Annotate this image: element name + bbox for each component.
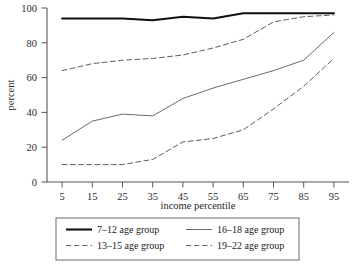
- x-tick-label: 85: [298, 191, 309, 202]
- series-line: [62, 15, 334, 71]
- legend-label: 7–12 age group: [97, 224, 159, 235]
- legend-label: 16–18 age group: [217, 224, 284, 235]
- y-tick-label: 0: [32, 177, 37, 188]
- x-tick-label: 25: [117, 191, 128, 202]
- x-tick-label: 65: [238, 191, 249, 202]
- x-axis-ticks: 5152535455565758595: [59, 182, 339, 202]
- x-tick-label: 5: [59, 191, 64, 202]
- axes-spines: [47, 8, 349, 182]
- y-tick-label: 20: [27, 142, 38, 153]
- x-tick-label: 35: [147, 191, 158, 202]
- y-tick-label: 40: [27, 107, 38, 118]
- y-tick-label: 100: [21, 3, 37, 14]
- series-lines: [62, 13, 334, 164]
- line-chart-svg: 0 20 40 60 80 100 5152535455565758595 pe…: [0, 0, 356, 266]
- legend-label: 13–15 age group: [97, 240, 164, 251]
- legend: 7–12 age group16–18 age group13–15 age g…: [56, 218, 299, 260]
- series-line: [62, 58, 334, 164]
- series-line: [62, 32, 334, 140]
- chart-figure: 0 20 40 60 80 100 5152535455565758595 pe…: [0, 0, 356, 266]
- y-axis-ticks: 0 20 40 60 80 100: [21, 3, 47, 188]
- x-tick-label: 15: [87, 191, 98, 202]
- y-tick-label: 60: [27, 72, 38, 83]
- series-line: [62, 13, 334, 20]
- x-tick-label: 95: [329, 191, 340, 202]
- legend-label: 19–22 age group: [217, 240, 284, 251]
- x-tick-label: 75: [268, 191, 279, 202]
- y-axis-title: percent: [5, 79, 16, 110]
- y-tick-label: 80: [27, 38, 38, 49]
- x-axis-title: income percentile: [161, 200, 236, 211]
